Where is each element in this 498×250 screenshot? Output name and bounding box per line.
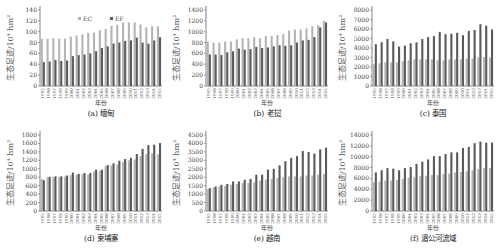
bar-ec-2010 (460, 59, 462, 86)
x-tick-label: 2004 (259, 88, 264, 99)
bar-ef-2004 (261, 175, 263, 211)
bar-ec-2015 (489, 58, 491, 87)
bar-ef-1998 (60, 176, 62, 211)
bar-ec-2004 (259, 181, 261, 211)
bar-ef-2000 (238, 49, 240, 86)
x-tick-label: 1997 (384, 88, 389, 99)
y-tick-label: 400 (192, 60, 204, 67)
bar-ec-2013 (145, 154, 147, 211)
bar-ec-2006 (105, 29, 107, 86)
x-tick-label: 2008 (448, 88, 453, 99)
bar-ec-2001 (76, 36, 78, 86)
x-tick-label: 1995 (40, 88, 45, 99)
bar-ef-2006 (439, 156, 441, 211)
bar-ef-2003 (421, 39, 423, 86)
bar-ec-1998 (390, 62, 392, 86)
bar-ef-1996 (49, 177, 51, 211)
x-tick-label: 2010 (128, 213, 133, 224)
bar-ef-2013 (313, 154, 315, 211)
bar-ef-1997 (54, 176, 56, 211)
x-tick-label: 1998 (224, 213, 229, 224)
y-tick-label: 4000 (354, 44, 369, 51)
bar-ef-2010 (130, 40, 132, 86)
bar-ef-1995 (209, 55, 211, 86)
x-axis-title: 年份 (427, 99, 439, 107)
bar-ec-2010 (128, 22, 130, 86)
bar-ef-2002 (249, 179, 251, 211)
bar-ec-2015 (157, 154, 159, 211)
bar-ef-1997 (220, 55, 222, 86)
x-tick-label: 1996 (212, 213, 217, 224)
bar-ec-2001 (242, 183, 244, 211)
bar-ec-2012 (305, 28, 307, 86)
bar-ec-2014 (483, 57, 485, 86)
bar-ef-2000 (404, 46, 406, 86)
x-tick-label: 2007 (110, 88, 115, 99)
y-tick-label: 800 (26, 173, 38, 180)
x-tick-label: 2015 (323, 213, 328, 224)
bar-ef-2008 (284, 161, 286, 211)
x-tick-label: 1999 (396, 213, 401, 224)
bar-ef-1996 (215, 187, 217, 211)
x-axis-title: 年份 (261, 99, 273, 107)
bar-ef-1998 (226, 52, 228, 86)
bar-ec-1999 (396, 180, 398, 211)
legend-label-ef: EF (115, 15, 124, 22)
bar-ef-1996 (381, 170, 383, 211)
bar-ec-2007 (110, 26, 112, 86)
y-tick-label: 14000 (350, 131, 369, 138)
bar-ec-1999 (64, 176, 66, 211)
y-tick-label: 12000 (350, 142, 369, 149)
x-tick-label: 1996 (212, 88, 217, 99)
y-tick-label: 140 (26, 6, 38, 13)
x-tick-label: 2005 (265, 213, 270, 224)
y-axis-label: 生态足迹/10⁴ hm² (171, 15, 181, 82)
bar-ef-2013 (147, 145, 149, 211)
bar-ec-2011 (466, 171, 468, 211)
bar-ec-2013 (477, 58, 479, 87)
bar-ef-2005 (433, 36, 435, 86)
bar-ec-1998 (390, 181, 392, 211)
bar-ef-2013 (479, 24, 481, 86)
bar-ec-2015 (323, 21, 325, 86)
bar-ec-2003 (253, 182, 255, 211)
y-tick-label: 1400 (188, 6, 203, 13)
chart-caption: (e) 越南 (254, 233, 282, 243)
x-tick-label: 2008 (116, 213, 121, 224)
bar-ef-2011 (468, 31, 470, 86)
bar-ec-2013 (311, 26, 313, 86)
bar-ef-1996 (381, 42, 383, 86)
x-tick-label: 2001 (75, 213, 80, 224)
bar-ec-1995 (373, 64, 375, 86)
bar-ef-2001 (78, 174, 80, 211)
bar-ef-2004 (95, 51, 97, 86)
y-tick-label: 1000 (188, 28, 203, 35)
bar-ef-1995 (375, 44, 377, 86)
y-tick-label: 1200 (22, 156, 37, 163)
bar-ec-1996 (379, 63, 381, 86)
x-tick-label: 1997 (52, 213, 57, 224)
y-tick-label: 120 (26, 17, 38, 24)
bar-ef-2009 (456, 33, 458, 86)
x-tick-label: 2011 (299, 213, 304, 224)
bar-ec-2012 (139, 25, 141, 86)
bar-ec-1996 (379, 182, 381, 211)
y-tick-label: 1000 (354, 73, 369, 80)
bar-ef-2005 (267, 170, 269, 211)
y-tick-label: 600 (192, 49, 204, 56)
bar-ef-1997 (386, 39, 388, 86)
bar-ef-2007 (279, 45, 281, 86)
bar-ef-2005 (267, 47, 269, 86)
bar-ef-1998 (60, 61, 62, 86)
figure-grid: 生态足迹/10⁴ hm²0204060801001201401995199619… (0, 0, 498, 250)
x-tick-label: 2005 (99, 88, 104, 99)
bar-ec-2003 (419, 59, 421, 86)
x-tick-label: 1996 (378, 213, 383, 224)
x-tick-label: 2001 (407, 213, 412, 224)
bar-ef-2007 (113, 163, 115, 211)
bar-ec-2000 (402, 179, 404, 211)
legend-swatch-ef (110, 17, 113, 20)
x-tick-label: 2002 (247, 88, 252, 99)
y-tick-label: 400 (26, 190, 38, 197)
x-tick-label: 1996 (378, 88, 383, 99)
